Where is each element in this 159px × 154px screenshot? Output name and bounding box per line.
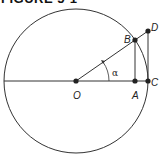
label-A: A xyxy=(131,90,139,101)
label-C: C xyxy=(151,77,159,88)
point-D xyxy=(145,28,150,33)
label-O: O xyxy=(73,90,81,101)
point-C xyxy=(145,78,150,83)
unit-circle-diagram: O A C B D α xyxy=(0,0,159,154)
label-D: D xyxy=(151,22,158,33)
point-O xyxy=(73,78,78,83)
label-alpha: α xyxy=(112,68,118,78)
point-B xyxy=(132,37,137,42)
point-A xyxy=(132,78,137,83)
angle-alpha-arc xyxy=(103,62,109,81)
label-B: B xyxy=(124,34,131,45)
